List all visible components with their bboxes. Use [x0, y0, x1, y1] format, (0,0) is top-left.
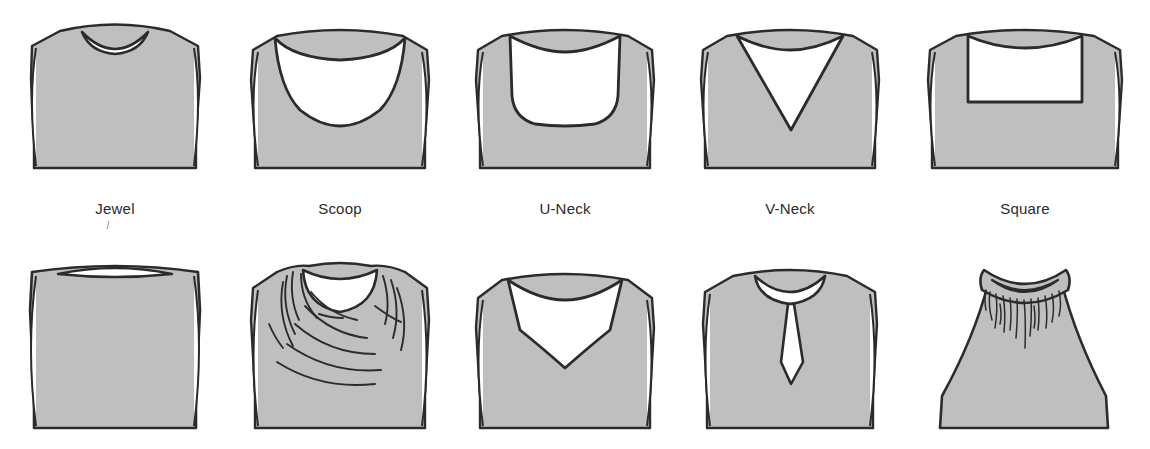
cowl-neckline-icon: [225, 258, 455, 438]
halter-neckline-icon: [900, 258, 1150, 438]
neckline-styles-sheet: Jewel Scoop: [0, 0, 1150, 449]
figure-cell-halter: [900, 0, 1150, 449]
figure-cell-cowl: [225, 0, 455, 449]
figure-cell-keyhole: [675, 0, 905, 449]
figure-cell-bateau: [0, 0, 230, 449]
keyhole-neckline-icon: [675, 258, 905, 438]
figure-cell-sweetheart: [450, 0, 680, 449]
bateau-neckline-icon: [0, 258, 230, 438]
sweetheart-neckline-icon: [450, 258, 680, 438]
